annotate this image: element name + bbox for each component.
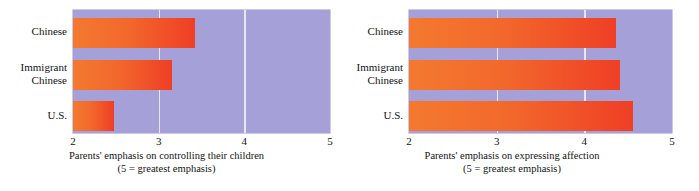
plot-area-left — [73, 10, 330, 133]
category-label-immigrant-chinese: Immigrant Chinese — [0, 61, 67, 86]
xtick-5: 5 — [669, 135, 675, 147]
xtick-4: 4 — [242, 135, 248, 147]
bar-immigrant-chinese — [409, 60, 620, 90]
chart-panel-expressing-affection: Chinese Immigrant Chinese U.S. 2 3 4 — [349, 0, 699, 191]
category-label-us: U.S. — [349, 109, 403, 122]
bar-immigrant-chinese — [73, 60, 172, 90]
gridline-4 — [244, 10, 246, 133]
category-label-chinese: Chinese — [0, 25, 67, 38]
two-panel-bar-chart-figure: Chinese Immigrant Chinese U.S. 2 3 4 — [0, 0, 699, 191]
bar-us — [409, 101, 633, 131]
xtick-3: 3 — [156, 135, 162, 147]
xtick-4: 4 — [582, 135, 588, 147]
category-label-us: U.S. — [0, 109, 67, 122]
xtick-2: 2 — [406, 135, 412, 147]
xtick-2: 2 — [70, 135, 76, 147]
plot-area-right — [409, 10, 672, 133]
category-label-immigrant-chinese: Immigrant Chinese — [349, 61, 403, 86]
x-axis-caption-right: Parents' emphasis on expressing affectio… — [337, 150, 687, 175]
x-axis-caption-left: Parents' emphasis on controlling their c… — [0, 150, 341, 175]
bar-chinese — [73, 18, 195, 48]
bar-us — [73, 101, 114, 131]
bar-chinese — [409, 18, 616, 48]
category-label-chinese: Chinese — [349, 25, 403, 38]
chart-panel-controlling-children: Chinese Immigrant Chinese U.S. 2 3 4 — [0, 0, 349, 191]
xtick-5: 5 — [327, 135, 333, 147]
xtick-3: 3 — [494, 135, 500, 147]
